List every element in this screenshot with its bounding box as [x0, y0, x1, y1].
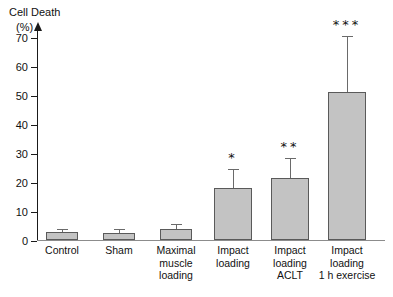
- error-bar-cap: [171, 224, 182, 225]
- significance-marker: *: [228, 153, 238, 163]
- chart-figure: Cell Death (%) 010203040506070 ****** Co…: [0, 0, 393, 297]
- error-bar-stem: [347, 37, 348, 92]
- bar-group[interactable]: ***: [328, 22, 366, 240]
- y-tick-label: 10: [16, 206, 28, 218]
- y-tick-label: 50: [16, 90, 28, 102]
- x-axis-baseline: [37, 240, 385, 241]
- y-tick-mark: [31, 212, 37, 213]
- error-bar-stem: [176, 225, 177, 230]
- error-bar-stem: [233, 170, 234, 187]
- y-tick-label: 70: [16, 32, 28, 44]
- bar[interactable]: [214, 188, 252, 240]
- bar-group[interactable]: [46, 22, 78, 240]
- y-tick-label: 30: [16, 148, 28, 160]
- bar[interactable]: [46, 232, 78, 240]
- error-bar-cap: [228, 169, 239, 170]
- error-bar-cap: [57, 229, 68, 230]
- chart-title: Cell Death: [9, 6, 60, 19]
- y-tick-mark: [31, 38, 37, 39]
- y-tick-mark: [31, 183, 37, 184]
- y-tick-mark: [31, 125, 37, 126]
- x-axis-label: Impact loading 1 h exercise: [311, 244, 383, 282]
- y-tick-label: 20: [16, 177, 28, 189]
- error-bar-cap: [285, 158, 296, 159]
- y-tick-mark: [31, 96, 37, 97]
- y-axis-arrow-icon: [34, 22, 42, 31]
- significance-marker: **: [281, 142, 300, 152]
- error-bar-cap: [342, 36, 353, 37]
- y-tick-mark: [31, 241, 37, 242]
- error-bar-stem: [290, 159, 291, 179]
- bar[interactable]: [271, 178, 309, 240]
- bar-group[interactable]: *: [214, 22, 252, 240]
- bar-group[interactable]: [103, 22, 135, 240]
- y-tick-mark: [31, 67, 37, 68]
- y-tick-label: 40: [16, 119, 28, 131]
- bar-group[interactable]: [160, 22, 192, 240]
- error-bar-cap: [114, 229, 125, 230]
- y-axis-line: [37, 30, 38, 241]
- plot-area: 010203040506070 ******: [37, 22, 385, 241]
- bar-group[interactable]: **: [271, 22, 309, 240]
- error-bar-stem: [62, 230, 63, 233]
- bar[interactable]: [160, 229, 192, 240]
- error-bar-stem: [119, 230, 120, 232]
- y-tick-mark: [31, 154, 37, 155]
- bar[interactable]: [103, 233, 135, 240]
- bar[interactable]: [328, 92, 366, 240]
- significance-marker: ***: [333, 20, 362, 30]
- y-tick-label: 60: [16, 61, 28, 73]
